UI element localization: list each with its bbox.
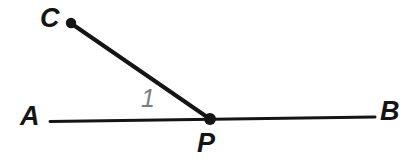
point-label-B: B (380, 98, 400, 125)
point-label-P: P (197, 130, 215, 157)
point-label-A: A (20, 103, 40, 130)
point-dot-P (204, 113, 216, 125)
point-dot-C (66, 18, 76, 28)
geometry-figure: C A B P 1 (0, 0, 419, 167)
angle-label-1: 1 (141, 86, 155, 111)
point-label-C: C (40, 5, 60, 32)
